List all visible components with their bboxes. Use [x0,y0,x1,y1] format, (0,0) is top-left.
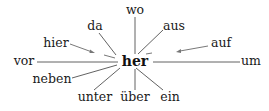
connector-unter [94,68,120,90]
connector-hier-arrow-2 [104,55,115,58]
arrowhead-auf [176,49,181,53]
word-unter: unter [78,91,113,104]
connector-hier-arrow [70,44,92,52]
connector-da [99,33,116,55]
word-ein: ein [160,91,179,104]
arrowhead-hier [90,50,96,54]
word-aus: aus [163,20,185,33]
word-vor: vor [14,55,35,68]
word-auf: auf [211,37,231,50]
word-wo: wo [126,4,144,17]
word-diagram: her wo da aus hier auf vor um neben unte… [0,0,269,111]
word-hier: hier [43,37,68,50]
connector-auf-arrow [180,46,208,51]
word-center-her: her [122,54,148,68]
word-neben: neben [33,73,72,86]
word-ueber: über [120,91,149,104]
connector-ein [136,68,163,90]
connector-aus [138,30,163,54]
word-da: da [87,20,102,33]
word-um: um [241,55,261,68]
